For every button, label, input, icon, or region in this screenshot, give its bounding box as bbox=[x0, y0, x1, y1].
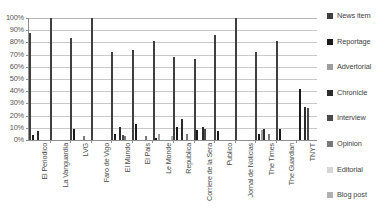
x-axis-tick-label: Faro de Vigo bbox=[103, 143, 110, 182]
legend-swatch-icon bbox=[327, 39, 333, 45]
bar bbox=[37, 131, 39, 140]
y-axis: 100%90%80%70%60%50%40%30%20%10%0% bbox=[0, 18, 26, 140]
bar-cluster bbox=[111, 18, 132, 140]
y-axis-tick-label: 60% bbox=[10, 63, 24, 70]
bar bbox=[158, 134, 160, 140]
bar bbox=[114, 134, 116, 140]
bar bbox=[91, 18, 93, 140]
legend-item: Interview bbox=[327, 114, 366, 122]
x-axis-tick-label: Corriere de la Sera bbox=[206, 143, 213, 201]
legend-label: Blog post bbox=[337, 191, 367, 199]
bar-cluster bbox=[276, 18, 297, 140]
legend-item: Editorial bbox=[327, 166, 363, 174]
x-axis-tick-label: The Times bbox=[268, 143, 275, 175]
y-axis-tick-label: 10% bbox=[10, 124, 24, 131]
legend-swatch-icon bbox=[327, 90, 333, 96]
bar bbox=[235, 18, 237, 140]
legend-label: Opinion bbox=[337, 140, 362, 148]
legend-swatch-icon bbox=[327, 192, 333, 198]
legend-label: Editorial bbox=[337, 166, 363, 174]
bar bbox=[255, 52, 257, 140]
x-axis-tick-label: El Periodico bbox=[41, 143, 48, 180]
bar-cluster bbox=[70, 18, 91, 140]
bar bbox=[111, 52, 113, 140]
bar bbox=[153, 41, 155, 140]
y-axis-tick-label: 20% bbox=[10, 112, 24, 119]
x-axis-tick-label: El Pais bbox=[144, 143, 151, 164]
bars-layer bbox=[29, 18, 317, 140]
y-axis-tick-label: 80% bbox=[10, 39, 24, 46]
bar bbox=[32, 135, 34, 140]
bar bbox=[196, 130, 198, 140]
y-axis-tick-label: 30% bbox=[10, 100, 24, 107]
x-axis-tick-label: La Vanguardia bbox=[62, 143, 69, 187]
bar-cluster bbox=[132, 18, 153, 140]
plot-area bbox=[28, 18, 317, 141]
bar bbox=[29, 33, 31, 140]
bar bbox=[268, 134, 270, 140]
bar-cluster bbox=[29, 18, 50, 140]
plot-wrapper: 100%90%80%70%60%50%40%30%20%10%0% El Per… bbox=[0, 0, 320, 223]
legend-label: News item bbox=[337, 12, 371, 20]
bar bbox=[186, 134, 188, 140]
x-axis-labels: El PeriodicoLa VanguardiaLVGFaro de Vigo… bbox=[28, 141, 316, 221]
y-axis-tick-label: 40% bbox=[10, 87, 24, 94]
y-axis-tick-label: 0% bbox=[14, 136, 24, 143]
x-axis-tick-label: El Mundo bbox=[124, 143, 131, 172]
legend-swatch-icon bbox=[327, 141, 333, 147]
legend-item: News item bbox=[327, 12, 371, 20]
y-axis-tick-label: 90% bbox=[10, 26, 24, 33]
bar-cluster bbox=[194, 18, 215, 140]
bar bbox=[214, 35, 216, 140]
bar bbox=[124, 136, 126, 140]
y-axis-tick-label: 70% bbox=[10, 51, 24, 58]
x-axis-tick-label: The Guardian bbox=[288, 143, 295, 185]
bar bbox=[176, 127, 178, 140]
x-axis-tick-label: Jornal de Noticias bbox=[247, 143, 254, 197]
bar bbox=[279, 129, 281, 140]
bar bbox=[135, 124, 137, 140]
bar bbox=[276, 41, 278, 140]
legend-item: Opinion bbox=[327, 140, 362, 148]
bar-cluster bbox=[235, 18, 256, 140]
x-axis-tick-label: Republica bbox=[185, 143, 192, 174]
legend-item: Blog post bbox=[327, 191, 367, 199]
bar bbox=[145, 136, 147, 140]
legend-label: Reportage bbox=[337, 38, 371, 46]
legend-item: Chronicle bbox=[327, 89, 367, 97]
bar-cluster bbox=[152, 18, 173, 140]
legend-label: Advertorial bbox=[337, 63, 371, 71]
x-axis-tick-label: TNYT bbox=[309, 143, 316, 161]
bar-cluster bbox=[214, 18, 235, 140]
legend-swatch-icon bbox=[327, 115, 333, 121]
bar bbox=[204, 129, 206, 140]
y-axis-tick-label: 50% bbox=[10, 75, 24, 82]
bar bbox=[50, 18, 52, 140]
bar bbox=[263, 129, 265, 140]
bar bbox=[194, 59, 196, 140]
bar-cluster bbox=[50, 18, 71, 140]
bar-cluster bbox=[255, 18, 276, 140]
x-axis-tick-label: LVG bbox=[82, 143, 89, 156]
legend: News itemReportageAdvertorialChronicleIn… bbox=[327, 12, 391, 220]
bar-cluster bbox=[296, 18, 317, 140]
bar bbox=[307, 108, 309, 140]
bar bbox=[70, 38, 72, 140]
legend-item: Advertorial bbox=[327, 63, 371, 71]
legend-swatch-icon bbox=[327, 64, 333, 70]
bar-cluster bbox=[91, 18, 112, 140]
legend-label: Interview bbox=[337, 114, 366, 122]
bar bbox=[217, 131, 219, 140]
legend-swatch-icon bbox=[327, 13, 333, 19]
legend-item: Reportage bbox=[327, 38, 371, 46]
bar-chart: 100%90%80%70%60%50%40%30%20%10%0% El Per… bbox=[0, 0, 391, 223]
bar bbox=[181, 119, 183, 140]
x-axis-tick-label: Publico bbox=[226, 143, 233, 166]
bar bbox=[73, 129, 75, 140]
bar bbox=[299, 89, 301, 140]
bar bbox=[83, 136, 85, 140]
legend-swatch-icon bbox=[327, 167, 333, 173]
legend-label: Chronicle bbox=[337, 89, 367, 97]
x-axis-tick-label: Le Monde bbox=[165, 143, 172, 174]
bar-cluster bbox=[173, 18, 194, 140]
